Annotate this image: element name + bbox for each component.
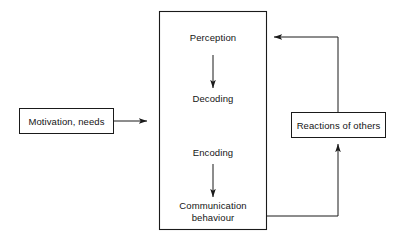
stage-label-decoding: Decoding — [159, 93, 267, 105]
stage-label-communication-line2: behaviour — [159, 212, 267, 224]
connector-reactions-to-perception — [274, 37, 338, 112]
motivation-needs-label: Motivation, needs — [19, 108, 114, 134]
connector-communication-to-reactions — [267, 144, 338, 216]
reactions-of-others-label: Reactions of others — [291, 112, 386, 138]
communication-process-diagram: Motivation, needs Reactions of others Pe… — [0, 0, 400, 251]
stage-label-communication-behaviour: Communication behaviour — [159, 200, 267, 223]
stage-label-encoding: Encoding — [159, 147, 267, 159]
stage-label-communication-line1: Communication — [159, 200, 267, 212]
stage-label-perception: Perception — [159, 32, 267, 44]
